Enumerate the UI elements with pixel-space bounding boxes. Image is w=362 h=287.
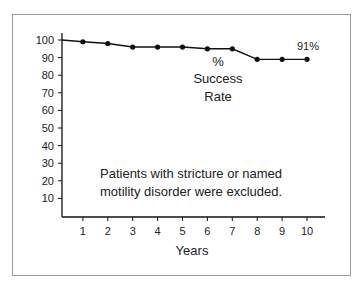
y-tick-label: 70	[42, 87, 54, 99]
x-axis-title: Years	[176, 243, 209, 258]
data-point	[304, 57, 309, 62]
series-label-percent: %	[212, 54, 224, 69]
data-series	[62, 39, 310, 62]
x-tick-label: 7	[229, 225, 235, 237]
y-tick-label: 100	[36, 34, 54, 46]
x-tick-label: 5	[179, 225, 185, 237]
y-tick-label: 60	[42, 104, 54, 116]
series-label-success: Success	[193, 71, 243, 86]
x-tick-label: 10	[301, 225, 313, 237]
note-line-1: Patients with stricture or named	[100, 166, 282, 181]
note-line-2: motility disorder were excluded.	[100, 184, 282, 199]
y-tick-label: 80	[42, 69, 54, 81]
data-point	[280, 57, 285, 62]
end-value-label: 91%	[297, 40, 319, 52]
y-tick-label: 90	[42, 52, 54, 64]
data-point	[155, 44, 160, 49]
y-tick-label: 50	[42, 122, 54, 134]
y-ticks: 100908070605040302010	[36, 34, 62, 204]
line-chart: 100908070605040302010 12345678910 Years …	[0, 0, 362, 287]
y-tick-label: 20	[42, 175, 54, 187]
x-tick-label: 9	[279, 225, 285, 237]
x-tick-label: 3	[130, 225, 136, 237]
x-tick-label: 2	[105, 225, 111, 237]
y-tick-label: 30	[42, 157, 54, 169]
data-point	[80, 39, 85, 44]
x-ticks: 12345678910	[80, 217, 313, 237]
x-tick-label: 6	[204, 225, 210, 237]
x-tick-label: 1	[80, 225, 86, 237]
data-point	[130, 44, 135, 49]
series-line	[62, 40, 307, 59]
data-point	[105, 41, 110, 46]
data-point	[205, 46, 210, 51]
data-point	[180, 44, 185, 49]
y-tick-label: 40	[42, 140, 54, 152]
series-label-rate: Rate	[204, 89, 231, 104]
data-point	[255, 57, 260, 62]
y-tick-label: 10	[42, 192, 54, 204]
x-tick-label: 8	[254, 225, 260, 237]
x-tick-label: 4	[155, 225, 161, 237]
data-point	[230, 46, 235, 51]
